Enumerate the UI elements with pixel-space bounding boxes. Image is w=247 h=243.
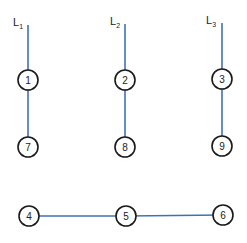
line-labels: L1L2L3 bbox=[13, 14, 216, 30]
svg-text:2: 2 bbox=[122, 75, 128, 86]
svg-text:6: 6 bbox=[220, 210, 226, 221]
svg-text:7: 7 bbox=[25, 142, 31, 153]
svg-text:L2: L2 bbox=[110, 15, 120, 29]
node-7: 7 bbox=[18, 137, 38, 157]
svg-text:8: 8 bbox=[122, 142, 128, 153]
node-3: 3 bbox=[212, 69, 232, 89]
svg-text:L3: L3 bbox=[206, 14, 216, 28]
node-4: 4 bbox=[19, 206, 39, 226]
node-8: 8 bbox=[115, 137, 135, 157]
svg-text:L1: L1 bbox=[13, 16, 23, 30]
node-6: 6 bbox=[213, 205, 233, 225]
svg-text:1: 1 bbox=[25, 75, 31, 86]
label-l1: L1 bbox=[13, 16, 23, 30]
label-l2: L2 bbox=[110, 15, 120, 29]
svg-text:3: 3 bbox=[219, 74, 225, 85]
edge-5-6 bbox=[126, 215, 223, 216]
node-2: 2 bbox=[115, 70, 135, 90]
node-1: 1 bbox=[18, 70, 38, 90]
label-l3: L3 bbox=[206, 14, 216, 28]
svg-text:5: 5 bbox=[123, 211, 129, 222]
diagram-canvas: L1L2L3 123789456 bbox=[0, 0, 247, 243]
node-5: 5 bbox=[116, 206, 136, 226]
svg-text:9: 9 bbox=[219, 141, 225, 152]
svg-text:4: 4 bbox=[26, 211, 32, 222]
node-9: 9 bbox=[212, 136, 232, 156]
